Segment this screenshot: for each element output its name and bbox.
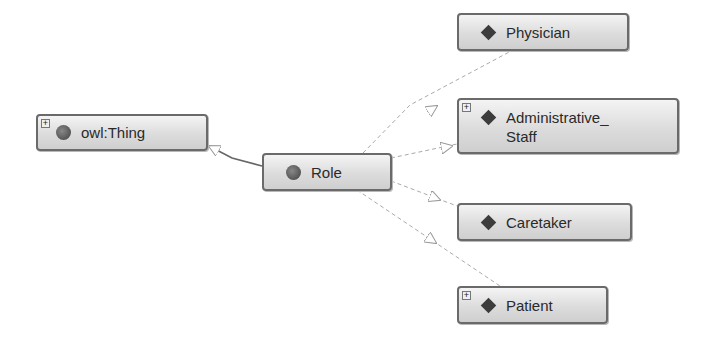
node-physician[interactable]: Physician xyxy=(457,13,629,51)
node-label-line2: Staff xyxy=(506,127,609,146)
individual-diamond-icon xyxy=(481,110,497,126)
node-patient[interactable]: + Patient xyxy=(457,286,608,324)
node-role[interactable]: Role xyxy=(262,153,392,191)
node-label: Role xyxy=(311,163,342,182)
node-label: Physician xyxy=(506,23,570,42)
individual-diamond-icon xyxy=(481,297,497,313)
node-label-line1: Administrative_ xyxy=(506,108,609,127)
edge-caretaker-to-role xyxy=(391,181,457,206)
edge-admin-staff-to-role xyxy=(391,144,457,158)
node-owl-thing[interactable]: + owl:Thing xyxy=(36,114,208,151)
class-circle-icon xyxy=(56,125,71,140)
node-label: Caretaker xyxy=(506,213,572,232)
class-circle-icon xyxy=(286,165,301,180)
individual-diamond-icon xyxy=(481,214,497,230)
individual-diamond-icon xyxy=(481,24,497,40)
expand-icon[interactable]: + xyxy=(462,103,471,112)
expand-icon[interactable]: + xyxy=(41,119,50,128)
node-label: Administrative_ Staff xyxy=(506,108,609,146)
node-caretaker[interactable]: Caretaker xyxy=(457,203,632,241)
expand-icon[interactable]: + xyxy=(462,291,471,300)
node-label: owl:Thing xyxy=(81,123,145,142)
node-label: Patient xyxy=(506,296,553,315)
edge-role-to-owl-thing xyxy=(209,146,262,166)
node-administrative-staff[interactable]: + Administrative_ Staff xyxy=(457,98,679,154)
edge-physician-arrow xyxy=(363,106,437,153)
